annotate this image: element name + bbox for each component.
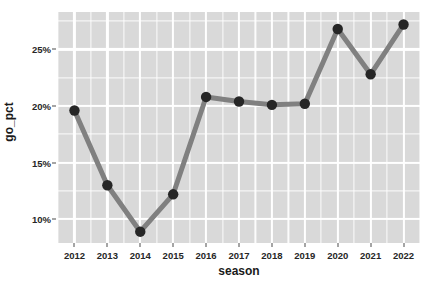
data-point[interactable] — [201, 92, 211, 102]
y-axis-tick-mark — [52, 105, 56, 106]
y-axis-tick-label: 10% — [32, 214, 51, 225]
series-line-go-pct — [74, 24, 403, 231]
data-point[interactable] — [398, 19, 408, 29]
x-axis-tick-mark — [304, 243, 305, 247]
x-axis-tick-label: 2020 — [327, 250, 348, 261]
x-axis-tick-mark — [271, 243, 272, 247]
x-axis-tick-label: 2019 — [294, 250, 315, 261]
x-axis-tick-mark — [337, 243, 338, 247]
y-axis-tick-labels: 10%15%20%25% — [18, 0, 58, 287]
data-point[interactable] — [102, 180, 112, 190]
x-axis-tick-mark — [370, 243, 371, 247]
x-axis-tick-mark — [206, 243, 207, 247]
plot-panel — [58, 12, 420, 243]
data-point[interactable] — [168, 189, 178, 199]
line-chart: go_pct 10%15%20%25% 20122013201420152016… — [0, 0, 440, 287]
x-axis-tick-mark — [239, 243, 240, 247]
x-axis-tick-label: 2022 — [393, 250, 414, 261]
data-point[interactable] — [69, 105, 79, 115]
x-axis-tick-label: 2014 — [130, 250, 151, 261]
x-axis-tick-label: 2021 — [360, 250, 381, 261]
y-axis-title: go_pct — [0, 0, 18, 243]
x-axis-tick-mark — [107, 243, 108, 247]
x-axis-title: season — [58, 264, 420, 278]
y-axis-tick-label: 20% — [32, 100, 51, 111]
x-axis-tick-mark — [74, 243, 75, 247]
x-axis-tick-label: 2016 — [196, 250, 217, 261]
data-point[interactable] — [365, 69, 375, 79]
x-axis-tick-mark — [173, 243, 174, 247]
y-axis-title-text: go_pct — [2, 102, 16, 141]
y-axis-tick-mark — [52, 162, 56, 163]
data-point[interactable] — [300, 99, 310, 109]
data-point[interactable] — [267, 100, 277, 110]
data-point[interactable] — [333, 24, 343, 34]
x-axis-tick-mark — [403, 243, 404, 247]
data-series-layer — [58, 12, 420, 243]
y-axis-tick-label: 25% — [32, 44, 51, 55]
x-axis-tick-labels: 2012201320142015201620172018201920202021… — [58, 243, 420, 263]
y-axis-tick-mark — [52, 49, 56, 50]
x-axis-tick-label: 2015 — [163, 250, 184, 261]
x-axis-tick-label: 2012 — [64, 250, 85, 261]
data-point[interactable] — [234, 96, 244, 106]
x-axis-tick-label: 2013 — [97, 250, 118, 261]
x-axis-tick-label: 2018 — [261, 250, 282, 261]
x-axis-tick-mark — [140, 243, 141, 247]
x-axis-tick-label: 2017 — [228, 250, 249, 261]
y-axis-tick-label: 15% — [32, 157, 51, 168]
data-point[interactable] — [135, 226, 145, 236]
y-axis-tick-mark — [52, 219, 56, 220]
